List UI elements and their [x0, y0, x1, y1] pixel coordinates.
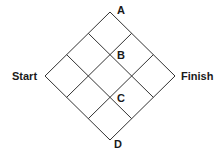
grid-line [110, 12, 175, 76]
grid-line [110, 76, 175, 140]
grid-line [67, 33, 132, 97]
label-finish: Finish [181, 71, 213, 82]
label-b: B [117, 50, 125, 61]
grid-line [88, 33, 153, 97]
grid-line [45, 12, 110, 76]
label-c: C [117, 93, 125, 104]
grid-line [45, 76, 110, 140]
label-start: Start [12, 71, 37, 82]
label-a: A [117, 5, 125, 16]
label-d: D [114, 139, 122, 150]
grid-line [88, 55, 153, 119]
grid-line [67, 55, 132, 119]
